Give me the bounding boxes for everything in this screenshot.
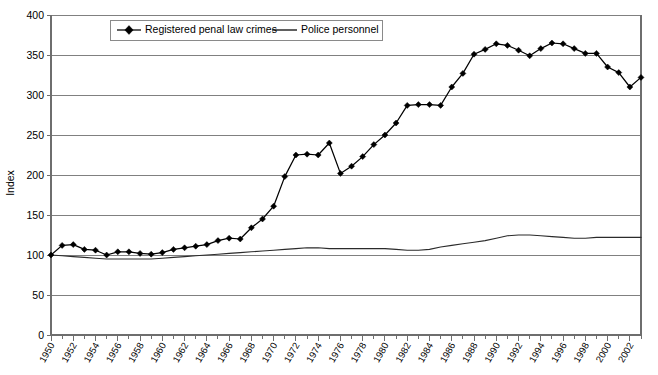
y-tick-label-50: 50 — [32, 289, 44, 301]
chart-legend[interactable]: Registered penal law crimes Police perso… — [110, 20, 382, 40]
y-tick-label-100: 100 — [26, 249, 44, 261]
chart-background — [0, 0, 658, 375]
chart-container: 050100150200250300350400 195019521954195… — [0, 0, 658, 375]
y-tick-label-0: 0 — [38, 329, 44, 341]
y-tick-label-200: 200 — [26, 169, 44, 181]
line-chart: 050100150200250300350400 195019521954195… — [0, 0, 658, 375]
legend-label-police: Police personnel — [301, 23, 379, 35]
y-axis-title: Index — [4, 169, 16, 195]
y-tick-label-300: 300 — [26, 89, 44, 101]
y-tick-label-150: 150 — [26, 209, 44, 221]
legend-label-crimes: Registered penal law crimes — [145, 23, 277, 35]
y-tick-label-400: 400 — [26, 9, 44, 21]
y-tick-label-350: 350 — [26, 49, 44, 61]
y-tick-label-250: 250 — [26, 129, 44, 141]
